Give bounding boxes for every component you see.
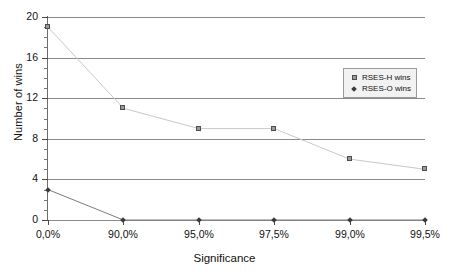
- x-tick-label: 97,5%: [239, 228, 309, 240]
- legend-item-rses-o: RSES-O wins: [348, 83, 411, 94]
- y-tick-minor: [44, 47, 48, 48]
- y-tick-minor: [44, 119, 48, 120]
- x-tick: [48, 220, 49, 225]
- y-tick-minor: [44, 78, 48, 79]
- x-tick-label: 99,5%: [390, 228, 449, 240]
- square-marker-icon: [348, 75, 360, 80]
- wins-vs-significance-chart: Number of wins Significance 048121620 0,…: [0, 0, 449, 277]
- y-tick-minor: [44, 88, 48, 89]
- gridline: [48, 98, 425, 99]
- y-tick-minor: [44, 190, 48, 191]
- y-tick-minor: [44, 169, 48, 170]
- y-tick: [42, 179, 48, 180]
- x-tick: [123, 220, 124, 225]
- y-tick-label: 20: [0, 10, 38, 22]
- x-tick-label: 0,0%: [13, 228, 83, 240]
- x-tick-label: 95,0%: [164, 228, 234, 240]
- square-marker-icon: [422, 166, 427, 171]
- y-tick-label: 16: [0, 51, 38, 63]
- square-marker-icon: [347, 156, 352, 161]
- gridline: [48, 17, 425, 18]
- chart-legend: RSES-H wins RSES-O wins: [343, 68, 417, 98]
- y-tick: [42, 139, 48, 140]
- y-tick: [42, 98, 48, 99]
- x-tick-label: 99,0%: [315, 228, 385, 240]
- y-tick-minor: [44, 37, 48, 38]
- y-tick-minor: [44, 149, 48, 150]
- square-marker-icon: [120, 105, 125, 110]
- x-tick: [425, 220, 426, 225]
- y-tick-minor: [44, 210, 48, 211]
- square-marker-icon: [196, 126, 201, 131]
- y-tick-minor: [44, 27, 48, 28]
- y-tick-label: 8: [0, 132, 38, 144]
- x-tick: [350, 220, 351, 225]
- legend-label: RSES-H wins: [360, 73, 410, 82]
- y-tick-minor: [44, 108, 48, 109]
- y-tick-minor: [44, 200, 48, 201]
- y-tick-label: 4: [0, 172, 38, 184]
- y-tick-label: 0: [0, 213, 38, 225]
- y-tick-label: 12: [0, 91, 38, 103]
- series-line: [48, 190, 425, 220]
- legend-item-rses-h: RSES-H wins: [348, 72, 411, 83]
- gridline: [48, 179, 425, 180]
- square-marker-icon: [271, 126, 276, 131]
- y-tick: [42, 17, 48, 18]
- y-tick-minor: [44, 129, 48, 130]
- y-tick-minor: [44, 159, 48, 160]
- x-tick-label: 90,0%: [88, 228, 158, 240]
- y-tick: [42, 58, 48, 59]
- y-tick-minor: [44, 68, 48, 69]
- x-axis-title: Significance: [0, 252, 449, 264]
- gridline: [48, 139, 425, 140]
- x-tick: [199, 220, 200, 225]
- x-tick: [274, 220, 275, 225]
- gridline: [48, 58, 425, 59]
- gridline: [48, 220, 425, 221]
- legend-label: RSES-O wins: [360, 84, 411, 93]
- diamond-marker-icon: [348, 87, 360, 91]
